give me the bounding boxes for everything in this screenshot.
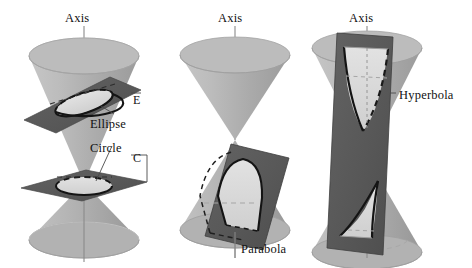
circle-cross-section [56, 177, 112, 195]
conic-sections-figure: Axis Ellipse Circle E C Axis Parabola Ax… [0, 0, 472, 268]
panel-parabola-graphics [180, 26, 290, 258]
plane-c-label: C [133, 152, 141, 164]
axis-label-right: Axis [349, 12, 373, 25]
hyperbola-label: Hyperbola [399, 89, 454, 102]
axis-label-middle: Axis [218, 12, 242, 25]
upper-cone-middle [180, 37, 290, 140]
circle-label: Circle [90, 142, 122, 155]
axis-label-left: Axis [65, 12, 89, 25]
conic-sections-diagram [0, 0, 472, 268]
panel-ellipse-circle-graphics [21, 26, 147, 262]
plane-e-label: E [133, 94, 141, 106]
parabola-label: Parabola [241, 243, 286, 256]
panel-hyperbola-graphics [312, 26, 422, 268]
ellipse-label: Ellipse [90, 118, 126, 131]
